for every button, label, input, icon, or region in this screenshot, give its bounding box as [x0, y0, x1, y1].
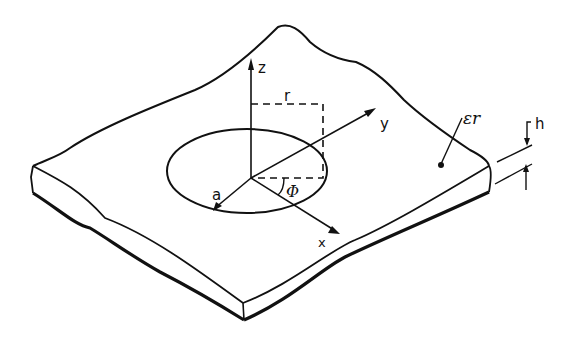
substrate-corner-edge — [243, 303, 244, 320]
circular-disk — [167, 129, 327, 213]
thickness-label: h — [535, 115, 545, 133]
substrate-right-top-edge — [243, 166, 489, 303]
y-axis-label: y — [380, 115, 389, 133]
permittivity-label: εr — [463, 108, 481, 128]
x-axis-label: x — [318, 235, 326, 250]
diagram-canvas: z y x a r Φ εr h — [0, 0, 576, 347]
substrate-right-bottom-edge — [244, 192, 489, 320]
z-axis-arrowhead — [248, 58, 254, 70]
z-axis-label: z — [258, 59, 266, 77]
y-axis — [251, 112, 370, 178]
r-label: r — [284, 87, 291, 105]
substrate-disk-diagram: z y x a r Φ εr h — [0, 0, 576, 347]
substrate-right-side — [489, 166, 491, 192]
substrate-left-bottom-edge — [33, 193, 244, 320]
permittivity-leader — [441, 118, 462, 164]
substrate-top-outline — [33, 25, 489, 166]
substrate-left-side — [31, 166, 33, 193]
permittivity-dot — [438, 162, 444, 168]
r-dashed-projection — [251, 104, 323, 178]
phi-label: Φ — [286, 182, 299, 201]
phi-angle-arc — [278, 178, 284, 195]
thickness-upper-arrowhead — [524, 138, 530, 146]
thickness-upper-extension — [497, 145, 532, 162]
y-axis-arrowhead — [364, 108, 376, 117]
radius-a-label: a — [212, 186, 221, 204]
